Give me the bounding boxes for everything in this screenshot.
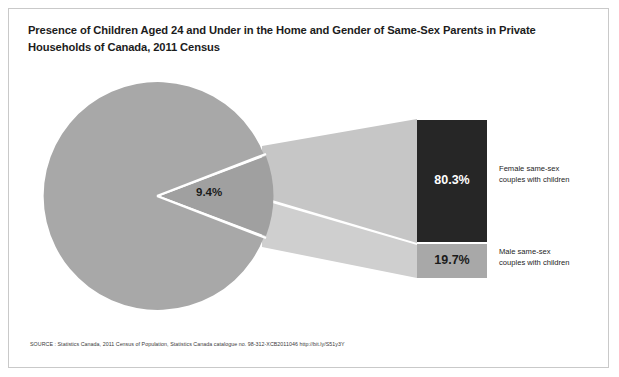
legend-label-female-line-1: Female same-sex <box>499 163 604 174</box>
bar-value-female: 80.3% <box>417 173 487 187</box>
legend-label-male-line-2: couples with children <box>499 257 604 268</box>
legend-label-female: Female same-sex couples with children <box>499 163 604 185</box>
source-note: SOURCE : Statistics Canada, 2011 Census … <box>30 341 575 347</box>
bar-of-pie-graphic <box>0 0 619 377</box>
legend-label-female-line-2: couples with children <box>499 174 604 185</box>
bar-value-male: 19.7% <box>417 253 487 267</box>
legend-label-male: Male same-sex couples with children <box>499 246 604 268</box>
chart-figure: Presence of Children Aged 24 and Under i… <box>0 0 619 377</box>
pie-slice-value: 9.4% <box>196 186 222 198</box>
legend-label-male-line-1: Male same-sex <box>499 246 604 257</box>
